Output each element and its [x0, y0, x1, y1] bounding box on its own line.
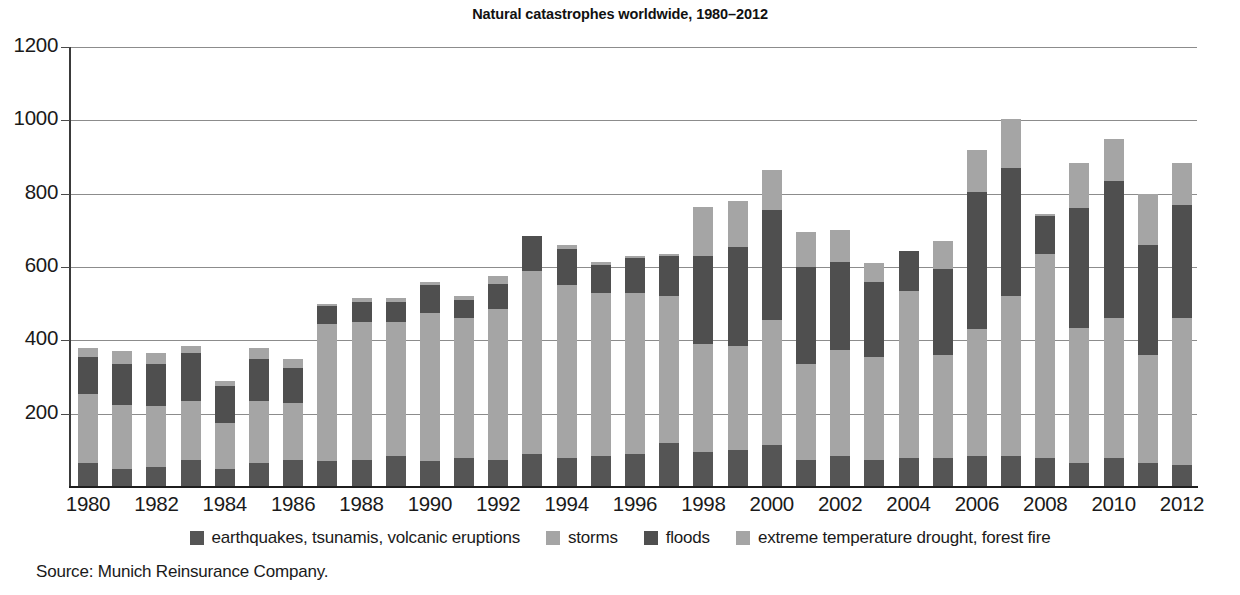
bar-1990[interactable]: [420, 47, 440, 487]
bar-segment-2: [967, 192, 987, 330]
bar-2004[interactable]: [899, 47, 919, 487]
legend-item-1[interactable]: storms: [546, 528, 618, 548]
bar-1982[interactable]: [146, 47, 166, 487]
bar-segment-2: [1001, 168, 1021, 296]
bar-segment-2: [1104, 181, 1124, 319]
bar-2002[interactable]: [830, 47, 850, 487]
bar-2000[interactable]: [762, 47, 782, 487]
bar-segment-0: [386, 456, 406, 487]
y-axis-label: 800: [0, 180, 58, 204]
plot-area: [69, 47, 1197, 487]
bar-2005[interactable]: [933, 47, 953, 487]
bar-segment-0: [830, 456, 850, 487]
y-tick-1000: [61, 120, 70, 121]
bar-2011[interactable]: [1138, 47, 1158, 487]
bar-segment-3: [352, 298, 372, 302]
bar-1987[interactable]: [317, 47, 337, 487]
bar-2010[interactable]: [1104, 47, 1124, 487]
bar-segment-1: [249, 401, 269, 463]
y-tick-600: [61, 267, 70, 268]
bar-1997[interactable]: [659, 47, 679, 487]
bar-1988[interactable]: [352, 47, 372, 487]
legend-item-3[interactable]: extreme temperature drought, forest fire: [736, 528, 1050, 548]
bar-segment-0: [488, 460, 508, 488]
bar-1985[interactable]: [249, 47, 269, 487]
bar-segment-0: [215, 469, 235, 487]
bar-segment-1: [146, 406, 166, 467]
bar-segment-0: [1001, 456, 1021, 487]
legend-item-2[interactable]: floods: [644, 528, 710, 548]
bar-segment-2: [386, 302, 406, 322]
bar-segment-2: [693, 256, 713, 344]
bar-2006[interactable]: [967, 47, 987, 487]
bar-segment-0: [454, 458, 474, 487]
bar-segment-3: [796, 232, 816, 267]
bar-segment-1: [386, 322, 406, 456]
bar-1981[interactable]: [112, 47, 132, 487]
bar-2001[interactable]: [796, 47, 816, 487]
bar-segment-1: [283, 403, 303, 460]
bar-segment-1: [454, 318, 474, 457]
y-axis-label: 1200: [0, 33, 58, 57]
legend-item-0[interactable]: earthquakes, tsunamis, volcanic eruption…: [190, 528, 520, 548]
bar-1998[interactable]: [693, 47, 713, 487]
bar-segment-2: [659, 256, 679, 296]
bar-segment-0: [967, 456, 987, 487]
bar-segment-2: [78, 357, 98, 394]
bar-1999[interactable]: [728, 47, 748, 487]
bar-segment-2: [522, 236, 542, 271]
bar-segment-1: [1035, 254, 1055, 458]
bar-segment-0: [557, 458, 577, 487]
bar-segment-3: [1104, 139, 1124, 181]
bar-2003[interactable]: [864, 47, 884, 487]
y-tick-1200: [61, 47, 70, 48]
bar-segment-2: [1138, 245, 1158, 355]
legend-swatch-icon: [190, 531, 204, 545]
bar-segment-2: [1035, 216, 1055, 255]
bar-segment-0: [762, 445, 782, 487]
bar-segment-2: [557, 249, 577, 286]
bar-1984[interactable]: [215, 47, 235, 487]
bar-segment-2: [625, 258, 645, 293]
bar-2008[interactable]: [1035, 47, 1055, 487]
bar-segment-0: [659, 443, 679, 487]
bar-segment-1: [420, 313, 440, 462]
bar-1983[interactable]: [181, 47, 201, 487]
bar-segment-0: [249, 463, 269, 487]
bar-segment-0: [796, 460, 816, 488]
bar-segment-3: [830, 230, 850, 261]
bar-segment-1: [317, 324, 337, 462]
bar-segment-3: [762, 170, 782, 210]
bar-segment-2: [112, 364, 132, 404]
bar-segment-0: [1069, 463, 1089, 487]
bar-segment-2: [317, 306, 337, 324]
bar-segment-1: [591, 293, 611, 456]
chart-legend: earthquakes, tsunamis, volcanic eruption…: [0, 528, 1240, 548]
bar-segment-3: [933, 241, 953, 269]
bar-segment-1: [967, 329, 987, 456]
bar-segment-2: [454, 300, 474, 318]
bar-segment-3: [386, 298, 406, 302]
bar-1996[interactable]: [625, 47, 645, 487]
bar-1992[interactable]: [488, 47, 508, 487]
bar-segment-1: [522, 271, 542, 454]
bar-segment-1: [215, 423, 235, 469]
bar-2012[interactable]: [1172, 47, 1192, 487]
bar-1995[interactable]: [591, 47, 611, 487]
bar-segment-1: [933, 355, 953, 458]
bar-2007[interactable]: [1001, 47, 1021, 487]
bar-segment-1: [625, 293, 645, 454]
bar-segment-2: [146, 364, 166, 406]
bar-1993[interactable]: [522, 47, 542, 487]
bar-segment-0: [899, 458, 919, 487]
bar-segment-1: [488, 309, 508, 459]
bar-segment-2: [283, 368, 303, 403]
bar-1980[interactable]: [78, 47, 98, 487]
bar-2009[interactable]: [1069, 47, 1089, 487]
bar-segment-3: [625, 256, 645, 258]
bar-1989[interactable]: [386, 47, 406, 487]
bar-segment-0: [522, 454, 542, 487]
bar-1986[interactable]: [283, 47, 303, 487]
bar-1991[interactable]: [454, 47, 474, 487]
bar-1994[interactable]: [557, 47, 577, 487]
